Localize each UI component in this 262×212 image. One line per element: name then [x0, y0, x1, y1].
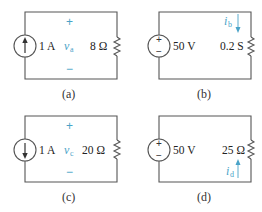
circuit-b-var-symbol: i — [224, 14, 227, 28]
circuit-a: 1 A + v a − 8 Ω (a) — [14, 12, 120, 101]
circuit-b-element-value: 0.2 S — [220, 40, 244, 52]
circuit-c-element-value: 20 Ω — [82, 144, 105, 156]
circuit-c-plus: + — [66, 119, 73, 133]
circuit-d-element-value: 25 Ω — [222, 144, 245, 156]
circuit-d-var-subscript: d — [230, 170, 234, 179]
circuit-c-source-value: 1 A — [39, 144, 56, 156]
circuit-a-var-subscript: a — [70, 45, 74, 54]
circuit-a-caption: (a) — [62, 87, 75, 101]
circuit-b-source-minus: − — [156, 46, 162, 57]
circuit-d: + − 50 V 25 Ω i d (d) — [148, 116, 254, 204]
current-source-down-icon — [14, 139, 36, 161]
voltage-source-icon: + − — [148, 138, 170, 161]
circuit-d-source-plus: + — [156, 138, 162, 149]
circuit-d-source-minus: − — [156, 150, 162, 161]
circuit-a-minus: − — [66, 62, 73, 76]
voltage-source-icon: + − — [148, 34, 170, 57]
circuit-c-var-subscript: c — [70, 149, 74, 158]
circuit-c: 1 A + v c − 20 Ω (c) — [14, 116, 120, 204]
circuit-d-source-value: 50 V — [173, 144, 196, 156]
resistor-icon — [114, 37, 120, 56]
current-source-up-icon — [14, 35, 36, 57]
circuit-b-source-plus: + — [156, 34, 162, 45]
circuit-d-caption: (d) — [197, 190, 211, 204]
circuit-b-var-subscript: b — [228, 20, 232, 29]
circuit-b-caption: (b) — [197, 87, 211, 101]
circuit-a-plus: + — [66, 15, 73, 29]
resistor-icon — [248, 37, 254, 56]
resistor-icon — [114, 140, 120, 159]
circuit-d-var-symbol: i — [226, 164, 229, 178]
circuit-b: + − 50 V 0.2 S i b (b) — [148, 12, 254, 101]
circuit-diagram-figure: 1 A + v a − 8 Ω (a) + − 50 V 0.2 S i b (… — [0, 0, 262, 212]
circuit-c-minus: − — [66, 165, 73, 179]
circuit-c-caption: (c) — [62, 190, 75, 204]
circuit-a-source-value: 1 A — [39, 40, 56, 52]
circuit-a-element-value: 8 Ω — [90, 40, 107, 52]
circuit-b-source-value: 50 V — [173, 40, 196, 52]
current-arrow-up-icon — [236, 159, 241, 178]
current-arrow-down-icon — [236, 14, 241, 33]
resistor-icon — [248, 140, 254, 159]
